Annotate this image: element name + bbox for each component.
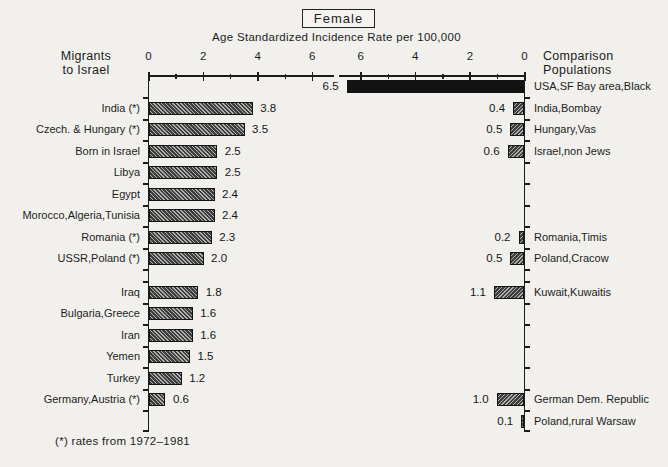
left-category-label: Czech. & Hungary (*) <box>0 123 140 136</box>
right-row-tick <box>524 97 530 99</box>
left-row-tick <box>143 281 149 283</box>
left-row-tick <box>143 367 149 369</box>
left-x-tick-label: 2 <box>193 50 213 63</box>
left-value-label: 1.5 <box>197 350 213 363</box>
left-value-label: 2.4 <box>222 188 238 201</box>
left-value-label: 3.8 <box>260 102 276 115</box>
right-x-tick-label: 0 <box>515 50 535 63</box>
right-bar <box>497 393 524 406</box>
right-row-tick <box>524 281 530 283</box>
left-category-label: Born in Israel <box>0 145 140 158</box>
right-row-tick <box>524 162 530 164</box>
chart-plot-area: 00224466USA,SF Bay area,Black6.5India (*… <box>0 0 668 467</box>
left-value-label: 1.8 <box>206 286 222 299</box>
left-row-tick <box>143 205 149 207</box>
left-value-label: 2.5 <box>225 145 241 158</box>
left-row-tick <box>143 269 149 271</box>
right-category-label: Hungary,Vas <box>534 123 596 136</box>
left-x-tick-label: 6 <box>302 50 322 63</box>
left-x-tick-label: 4 <box>248 50 268 63</box>
right-x-tick <box>388 74 390 79</box>
right-value-label: 1.1 <box>426 286 486 299</box>
right-bar <box>347 80 524 93</box>
right-row-tick <box>524 269 530 271</box>
right-category-label: India,Bombay <box>534 102 601 115</box>
left-bar <box>149 350 190 363</box>
left-x-tick <box>257 72 259 81</box>
left-bar <box>149 372 182 385</box>
left-value-label: 2.4 <box>222 209 238 222</box>
right-category-label: Kuwait,Kuwaitis <box>534 286 611 299</box>
left-row-tick <box>143 248 149 250</box>
left-bar <box>149 393 165 406</box>
right-category-label: Romania,Timis <box>534 231 607 244</box>
left-row-tick <box>143 346 149 348</box>
right-row-tick <box>524 430 530 432</box>
left-bar <box>149 123 245 136</box>
left-x-tick <box>175 74 177 79</box>
left-x-tick <box>285 74 287 79</box>
left-x-tick <box>230 74 232 79</box>
left-value-label: 2.5 <box>225 166 241 179</box>
left-row-tick <box>143 183 149 185</box>
right-value-label: 0.2 <box>451 231 511 244</box>
left-x-tick-label: 0 <box>139 50 159 63</box>
left-category-label: India (*) <box>0 102 140 115</box>
left-category-label: Libya <box>0 166 140 179</box>
left-row-tick <box>143 303 149 305</box>
right-value-label: 0.6 <box>440 145 500 158</box>
right-row-tick <box>524 119 530 121</box>
right-x-tick <box>497 74 499 79</box>
right-x-tick <box>524 72 526 81</box>
left-bar <box>149 329 193 342</box>
right-value-label: 0.5 <box>442 252 502 265</box>
left-value-label: 3.5 <box>252 123 268 136</box>
left-category-label: Egypt <box>0 188 140 201</box>
chart-page: Female Age Standardized Incidence Rate p… <box>0 0 668 467</box>
left-bar <box>149 252 204 265</box>
right-bar <box>510 252 524 265</box>
left-row-tick <box>143 140 149 142</box>
right-bar <box>519 231 524 244</box>
left-x-tick <box>203 72 205 81</box>
right-value-label: 0.1 <box>453 415 513 428</box>
chart-footnote: (*) rates from 1972–1981 <box>55 435 190 447</box>
right-value-label: 1.0 <box>429 393 489 406</box>
left-row-tick <box>143 410 149 412</box>
right-x-tick-label: 2 <box>460 50 480 63</box>
right-x-tick-label: 6 <box>351 50 371 63</box>
left-row-tick <box>143 119 149 121</box>
right-row-tick <box>524 324 530 326</box>
left-row-tick <box>143 389 149 391</box>
right-row-tick <box>524 183 530 185</box>
left-bar <box>149 209 215 222</box>
right-row-tick <box>524 205 530 207</box>
left-bar <box>149 145 217 158</box>
left-category-label: Iraq <box>0 286 140 299</box>
right-row-tick <box>524 303 530 305</box>
left-value-label: 0.6 <box>173 393 189 406</box>
right-x-tick <box>442 74 444 79</box>
left-category-label: Bulgaria,Greece <box>0 307 140 320</box>
left-bar <box>149 166 217 179</box>
right-bar <box>494 286 524 299</box>
right-category-label: German Dem. Republic <box>534 393 649 406</box>
left-row-tick <box>143 324 149 326</box>
right-category-label: Poland,Cracow <box>534 252 609 265</box>
left-category-label: Romania (*) <box>0 231 140 244</box>
left-value-label: 2.3 <box>219 231 235 244</box>
right-row-tick <box>524 226 530 228</box>
left-value-label: 1.6 <box>200 307 216 320</box>
right-row-tick <box>524 248 530 250</box>
left-row-tick <box>143 97 149 99</box>
right-row-tick <box>524 140 530 142</box>
left-bar <box>149 102 253 115</box>
right-bar <box>513 102 524 115</box>
right-category-label: USA,SF Bay area,Black <box>534 80 651 93</box>
left-row-tick <box>143 162 149 164</box>
left-value-label: 1.6 <box>200 329 216 342</box>
left-category-label: Turkey <box>0 372 140 385</box>
left-bar <box>149 231 212 244</box>
left-category-label: Iran <box>0 329 140 342</box>
right-row-tick <box>524 410 530 412</box>
